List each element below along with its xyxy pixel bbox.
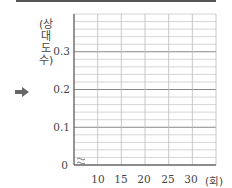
chart-plot-area (0, 0, 232, 188)
y-tick-label: 0.2 (46, 83, 70, 95)
x-tick-label: 10 (88, 173, 108, 185)
x-axis-unit: (회) (205, 173, 223, 188)
y-tick-label: 0.3 (46, 45, 70, 57)
axis-break-icon (77, 158, 85, 164)
y-tick-label: 0.1 (46, 121, 70, 133)
x-tick-label: 30 (181, 173, 201, 185)
x-tick-label: 20 (134, 173, 154, 185)
y-tick-origin: 0 (44, 159, 68, 171)
x-tick-label: 15 (111, 173, 131, 185)
x-tick-label: 25 (158, 173, 178, 185)
